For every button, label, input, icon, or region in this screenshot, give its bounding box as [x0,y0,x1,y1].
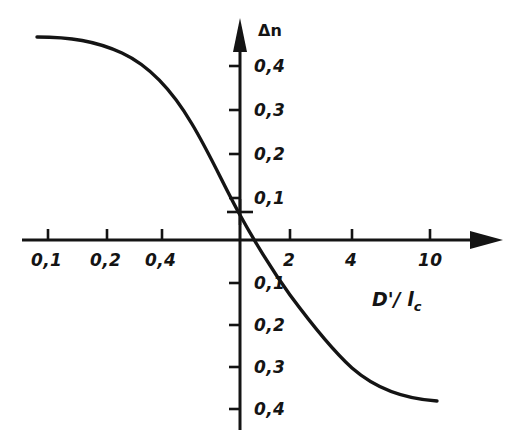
x-axis-title: D'/ lc [372,288,421,314]
data-curve [37,37,437,401]
x-axis-title-main: D'/ l [372,288,414,310]
y-tick-label: 0,3 [254,100,285,120]
x-tick-label: 4 [345,250,357,270]
x-tick-label: 10 [418,250,442,270]
y-axis-tick-marks [229,66,240,409]
x-tick-label: 0,1 [31,250,62,270]
x-axis-title-subscript: c [414,299,422,314]
cross-marker [227,199,253,225]
x-tick-label: 0,2 [90,250,121,270]
y-axis-title-text: Δn [258,21,282,40]
y-axis-arrowhead [233,18,247,52]
x-tick-label: 0,4 [145,250,176,270]
x-tick-label: 2 [283,250,295,270]
x-axis-arrowhead [470,231,503,249]
y-tick-label: 0,1 [254,188,285,208]
y-tick-label: 0,4 [254,399,285,419]
y-tick-label: 0,2 [254,315,285,335]
y-axis-title: Δn [258,18,282,40]
figure-container: Δn D'/ lc 0,10,20,42410 0,40,30,20,10,10… [0,0,519,437]
y-tick-label: 0,1 [254,273,285,293]
y-tick-label: 0,3 [254,357,285,377]
y-tick-label: 0,4 [254,56,285,76]
y-tick-label: 0,2 [254,144,285,164]
